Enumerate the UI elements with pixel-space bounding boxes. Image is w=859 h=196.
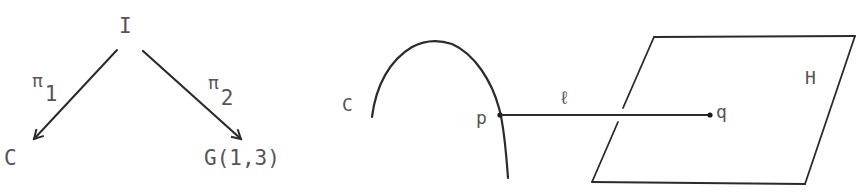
curve-C bbox=[372, 41, 508, 178]
label-plane-H: H bbox=[805, 67, 816, 88]
node-G13: G(1,3) bbox=[204, 146, 280, 170]
label-l: ℓ bbox=[559, 87, 570, 108]
node-C: C bbox=[4, 146, 17, 170]
plane-top-edge bbox=[654, 36, 855, 37]
pi1-subscript: 1 bbox=[45, 82, 58, 106]
figure: I π1 π2 C G(1,3) C p ℓ q H bbox=[0, 0, 859, 196]
plane-right-edge bbox=[805, 36, 855, 184]
label-pi1: π1 bbox=[32, 70, 58, 106]
pi2-symbol: π bbox=[208, 72, 219, 93]
pi2-subscript: 2 bbox=[221, 86, 234, 110]
plane-left-edge-lower bbox=[592, 122, 618, 182]
label-pi2: π2 bbox=[208, 72, 234, 110]
point-q bbox=[707, 112, 712, 117]
label-q: q bbox=[716, 101, 727, 122]
label-p: p bbox=[476, 107, 487, 128]
node-I: I bbox=[119, 14, 132, 38]
diagram-canvas: I π1 π2 C G(1,3) C p ℓ q H bbox=[0, 0, 859, 196]
plane-left-edge-upper bbox=[623, 37, 654, 108]
plane-bottom-edge bbox=[592, 182, 805, 184]
label-curve-C: C bbox=[342, 94, 353, 115]
pi1-symbol: π bbox=[32, 70, 43, 91]
